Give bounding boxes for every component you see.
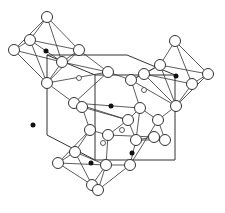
anion-atom [126,75,137,86]
bond [82,107,128,120]
bond [14,50,47,83]
cation-dot [31,123,36,128]
anion-atom [171,101,182,112]
structure-canvas [0,0,225,213]
bond [58,163,92,185]
anion-atom [77,102,88,113]
cation-dot [174,74,179,79]
anion-atom [42,78,53,89]
anion-atom [203,69,214,80]
anion-atom [93,185,104,196]
anion-atom [74,45,85,56]
anion-atom [9,45,20,56]
cation-dot [89,161,94,166]
cell-edge [127,55,175,75]
bond [58,163,106,165]
anion-atom [42,12,53,23]
small-atom [101,141,106,146]
anion-atom [101,160,112,171]
small-atom [77,76,82,81]
anion-atom [131,135,142,146]
anion-atom [187,79,198,90]
anion-atom [125,160,136,171]
anion-atom [57,57,68,68]
cation-dot [109,104,114,109]
anion-atom [123,115,134,126]
anion-atom [53,158,64,169]
anion-atom [103,130,114,141]
small-atom [120,128,125,133]
cation-dot [44,49,49,54]
anion-atom [155,60,166,71]
cation-dot [130,151,135,156]
anion-atom [135,103,146,114]
anion-atom [70,147,81,158]
anion-atom [139,69,150,80]
anion-atom [153,115,164,126]
bond [160,65,176,106]
anion-atom [160,135,171,146]
crystal-structure-diagram [0,0,225,213]
bond [30,40,47,83]
anion-atom [170,36,181,47]
anion-atom [85,125,96,136]
small-atom [142,88,147,93]
anion-atom [103,67,114,78]
anion-atom [25,35,36,46]
bond [47,17,79,50]
anion-atom [149,132,160,143]
